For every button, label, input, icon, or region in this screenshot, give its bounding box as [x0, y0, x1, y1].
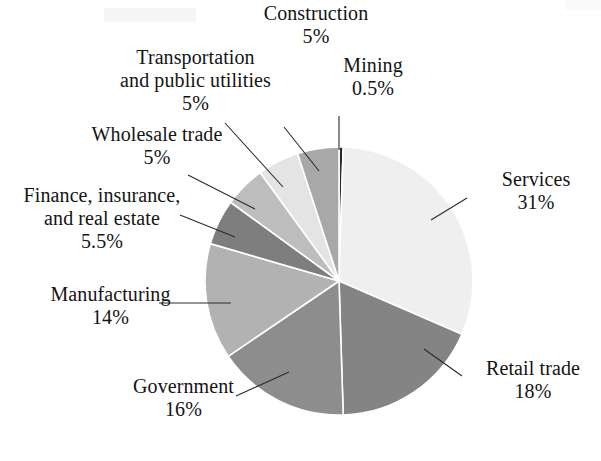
slice-label-mining-percent: 0.5%: [318, 77, 428, 100]
slice-label-wholesale-trade-percent: 5%: [62, 146, 252, 169]
slice-label-mining: Mining 0.5%: [318, 54, 428, 100]
slice-label-transportation-percent: 5%: [93, 92, 298, 115]
slice-label-construction-percent: 5%: [241, 25, 391, 48]
slice-label-construction-name: Construction: [241, 2, 391, 25]
slice-label-services-name: Services: [476, 168, 596, 191]
slice-label-finance-line2: and real estate: [2, 207, 202, 230]
slice-label-government-name: Government: [96, 375, 271, 398]
slice-label-government: Government 16%: [96, 375, 271, 421]
slice-label-finance-percent: 5.5%: [2, 230, 202, 253]
slice-label-retail-trade: Retail trade 18%: [468, 357, 598, 403]
slice-label-services-percent: 31%: [476, 191, 596, 214]
slice-label-finance: Finance, insurance, and real estate 5.5%: [2, 184, 202, 252]
slice-label-retail-trade-percent: 18%: [468, 380, 598, 403]
slice-label-transportation-line2: and public utilities: [93, 69, 298, 92]
slice-label-wholesale-trade-name: Wholesale trade: [62, 123, 252, 146]
slice-label-finance-line1: Finance, insurance,: [2, 184, 202, 207]
slice-label-services: Services 31%: [476, 168, 596, 214]
slice-label-transportation: Transportation and public utilities 5%: [93, 46, 298, 114]
slice-label-construction: Construction 5%: [241, 2, 391, 48]
slice-label-government-percent: 16%: [96, 398, 271, 421]
slice-label-retail-trade-name: Retail trade: [468, 357, 598, 380]
slice-label-manufacturing-name: Manufacturing: [18, 283, 203, 306]
slice-label-mining-name: Mining: [318, 54, 428, 77]
slice-label-wholesale-trade: Wholesale trade 5%: [62, 123, 252, 169]
slice-label-manufacturing-percent: 14%: [18, 306, 203, 329]
slice-label-transportation-line1: Transportation: [93, 46, 298, 69]
pie-chart-figure: Construction 5% Mining 0.5% Transportati…: [0, 0, 601, 461]
slice-label-manufacturing: Manufacturing 14%: [18, 283, 203, 329]
